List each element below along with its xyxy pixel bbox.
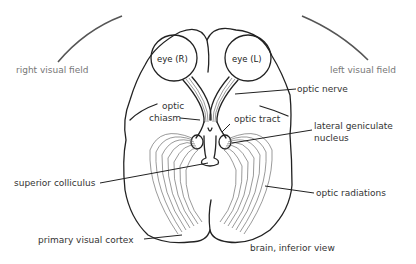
optic-nerve-label: optic nerve [297, 84, 348, 94]
leader-optic-tract [222, 124, 230, 132]
superior-colliculus [202, 136, 219, 166]
optic-chiasm-label-line1: optic [162, 101, 184, 111]
brain-view-caption: brain, inferior view [250, 243, 335, 253]
lgn-label-line1: lateral geniculate [314, 121, 393, 131]
right-visual-field-label: right visual field [16, 65, 89, 75]
leader-optic-chiasm [180, 118, 200, 120]
visual-pathway-diagram: right visual field left visual field eye… [0, 0, 416, 264]
leader-superior-colliculus [100, 163, 208, 183]
occipital-fissure [209, 200, 211, 230]
optic-chiasm-label-line2: chiasm [149, 113, 181, 123]
optic-nerve-right [183, 77, 211, 122]
optic-radiations-left [220, 134, 272, 234]
optic-radiations-right [150, 134, 202, 234]
optic-radiations-label: optic radiations [316, 188, 386, 198]
right-visual-field-arc [58, 16, 122, 62]
primary-visual-cortex-label: primary visual cortex [38, 235, 134, 245]
left-eye-label: eye (L) [232, 54, 262, 64]
left-visual-field-label: left visual field [330, 65, 396, 75]
brain-outline [124, 28, 292, 242]
leader-lgn [232, 130, 312, 143]
right-eye-label: eye (R) [157, 54, 188, 64]
optic-tract-label: optic tract [234, 114, 281, 124]
leader-optic-nerve [235, 89, 296, 94]
left-visual-field-arc [302, 16, 368, 60]
optic-chiasm [208, 128, 212, 131]
frontal-fissure [207, 40, 209, 72]
leader-optic-radiations [265, 186, 314, 193]
superior-colliculus-label: superior colliculus [14, 178, 96, 188]
lgn-label-line2: nucleus [314, 133, 349, 143]
